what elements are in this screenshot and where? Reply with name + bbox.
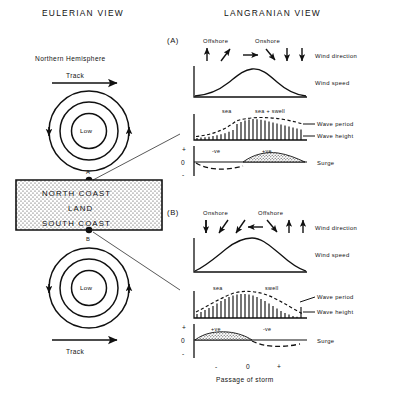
panel-b-surge-pos-label: +ve (211, 326, 221, 332)
panel-b-offshore-label: Offshore (258, 210, 284, 216)
panel-b-wave-height-bars (197, 294, 301, 318)
panel-a-surge-label: Surge (317, 160, 335, 166)
panel-b-sea-label: sea (213, 285, 223, 291)
panel-b-surge-minus: - (182, 350, 184, 357)
panel-a-wind-speed-label: Wind speed (315, 80, 350, 86)
panel-b-swell-label: swell (265, 285, 278, 291)
panel-a: (A) Offshore Onshore Wind direction Wind… (167, 36, 357, 178)
panel-b-wind-speed-label: Wind speed (315, 252, 350, 258)
north-coast-label: NORTH COAST (42, 189, 111, 198)
panel-b-wave-period-leader (300, 297, 315, 302)
panel-b-surge-plus: + (182, 324, 186, 331)
track-label-top: Track (66, 72, 85, 79)
panel-b-surge-neg-label: -ve (263, 326, 271, 332)
leader-line-a (93, 134, 180, 180)
panel-b-wind-speed-curve (195, 238, 306, 271)
panel-b-surge-negative-curve (252, 341, 300, 346)
bottom-axis-zero: 0 (246, 363, 250, 370)
northern-hemisphere-label: Northern Hemisphere (35, 55, 106, 63)
panel-a-surge-plus: + (182, 146, 186, 153)
panel-b-wind-axes (194, 238, 307, 272)
low-label-bottom: Low (80, 284, 92, 291)
panel-a-sea-swell-label: sea + swell (255, 108, 285, 114)
panel-a-sea-label: sea (222, 108, 232, 114)
panel-b-surge-zero: 0 (181, 337, 185, 344)
track-label-bottom: Track (66, 348, 85, 355)
passage-of-storm-label: Passage of storm (216, 376, 274, 384)
point-a-label: A (86, 169, 90, 175)
panel-b-surge-label: Surge (317, 338, 335, 344)
panel-a-onshore-label: Onshore (255, 38, 280, 44)
panel-a-wave-height-label: Wave height (317, 133, 353, 139)
panel-b-wave-height-label: Wave height (317, 309, 353, 315)
bottom-axis-plus: + (277, 363, 281, 370)
panel-b-wind-direction-label: Wind direction (315, 225, 357, 231)
panel-a-wave-period-label: Wave period (317, 121, 354, 127)
panel-a-surge-negative-curve (196, 163, 243, 169)
point-b-label: B (86, 236, 90, 242)
panel-a-id: (A) (167, 36, 179, 45)
panel-a-offshore-label: Offshore (203, 38, 229, 44)
panel-b: (B) Onshore Offshore Wind direction Wind… (167, 208, 357, 358)
panel-a-surge-neg-label: -ve (212, 148, 220, 154)
leader-line-b (93, 232, 180, 290)
panel-a-surge-positive-hump (243, 153, 305, 162)
panel-b-wave-period-label: Wave period (317, 294, 354, 300)
langranian-title: LANGRANIAN VIEW (224, 8, 321, 18)
low-label-top: Low (80, 127, 92, 134)
land-label: LAND (68, 204, 93, 213)
point-b-marker (86, 227, 93, 234)
panel-a-wave-height-bars (197, 119, 301, 140)
panel-b-onshore-label: Onshore (203, 210, 228, 216)
panel-a-surge-zero: 0 (181, 159, 185, 166)
panel-a-wind-direction-arrows (207, 48, 302, 61)
panel-b-wind-direction-arrows (206, 220, 303, 233)
panel-a-wind-speed-curve (195, 69, 306, 96)
south-coast-label: SOUTH COAST (42, 219, 111, 228)
eulerian-title: EULERIAN VIEW (42, 8, 124, 18)
panel-b-surge-positive-hump (195, 332, 252, 340)
bottom-axis-minus: - (215, 363, 217, 370)
panel-b-id: (B) (167, 208, 179, 217)
storm-surge-diagram: EULERIAN VIEW LANGRANIAN VIEW Northern H… (0, 0, 393, 393)
panel-a-wind-direction-label: Wind direction (315, 53, 357, 59)
panel-a-surge-minus: - (182, 171, 184, 178)
